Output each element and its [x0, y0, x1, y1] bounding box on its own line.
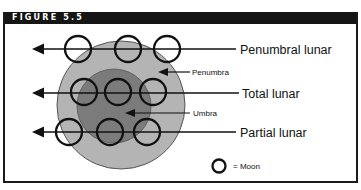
label-penumbral-lunar: Penumbral lunar [240, 43, 332, 57]
legend: = Moon [213, 160, 260, 173]
arrow-left-icon [32, 44, 44, 55]
arrow-left-icon [32, 88, 44, 99]
moon-legend-icon [213, 160, 226, 173]
legend-text: = Moon [233, 162, 260, 171]
label-partial-lunar: Partial lunar [240, 126, 307, 140]
arrow-left-icon [32, 127, 44, 138]
label-total-lunar: Total lunar [242, 87, 300, 101]
label-umbra: Umbra [193, 109, 218, 118]
eclipse-diagram: Penumbral lunar Penumbra Total lunar Umb… [0, 0, 361, 190]
label-penumbra: Penumbra [192, 68, 229, 77]
